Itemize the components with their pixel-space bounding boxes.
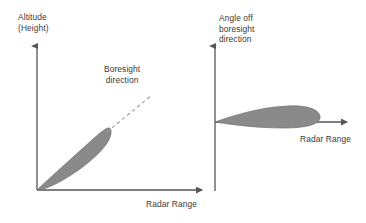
left-beam-lobe (37, 128, 111, 190)
right-y-axis-label: Angle off boresight direction (219, 13, 254, 45)
boresight-direction-label: Boresight direction (104, 64, 140, 85)
right-beam-lobe (215, 106, 320, 128)
right-x-axis-label: Radar Range (300, 134, 351, 145)
diagram-canvas (0, 0, 366, 223)
boresight-dashed-line (107, 95, 152, 132)
right-panel-angle-view (215, 46, 347, 191)
radar-beam-diagram: Altitude (Height) Boresight direction Ra… (0, 0, 366, 223)
left-x-axis-label: Radar Range (146, 199, 197, 210)
left-y-axis-label: Altitude (Height) (18, 12, 49, 33)
